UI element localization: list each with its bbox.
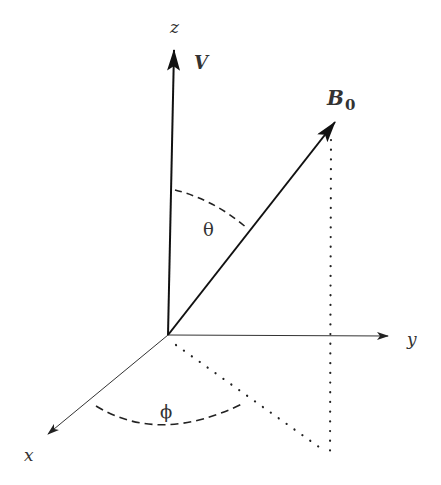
theta-label: θ bbox=[203, 219, 214, 240]
coordinate-diagram: z V B 0 θ ϕ y x bbox=[0, 0, 441, 485]
x-axis-label: x bbox=[24, 445, 34, 465]
b0-vector-label: B bbox=[326, 86, 344, 110]
y-axis-label: y bbox=[406, 329, 417, 349]
v-vector-label: V bbox=[194, 52, 210, 73]
phi-label: ϕ bbox=[160, 401, 172, 422]
b0-horizontal-projection bbox=[176, 345, 326, 452]
b0-vector bbox=[168, 122, 335, 335]
b0-subscript-label: 0 bbox=[345, 96, 355, 114]
z-axis-label: z bbox=[169, 17, 180, 37]
x-axis bbox=[48, 335, 168, 434]
b0-vertical-projection bbox=[330, 140, 331, 459]
z-axis-velocity-vector bbox=[168, 50, 174, 335]
y-axis bbox=[168, 335, 388, 336]
